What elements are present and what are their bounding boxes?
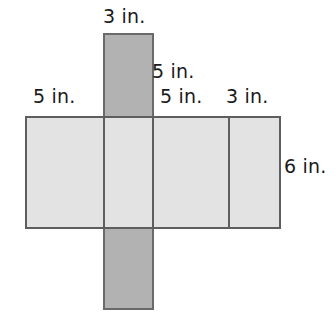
label-upper-middle-width: 5 in.	[152, 61, 195, 82]
label-right-face-width: 3 in.	[226, 86, 269, 107]
label-main-height: 6 in.	[284, 156, 327, 177]
fold-line-left	[103, 116, 105, 229]
label-left-face-width: 5 in.	[33, 86, 76, 107]
label-inner-face-width: 5 in.	[160, 86, 203, 107]
fold-line-middle	[152, 116, 154, 229]
fold-line-right	[228, 116, 230, 229]
label-top-strip-width: 3 in.	[103, 6, 146, 27]
net-diagram-figure: 3 in. 5 in. 5 in. 5 in. 3 in. 6 in.	[0, 0, 336, 334]
